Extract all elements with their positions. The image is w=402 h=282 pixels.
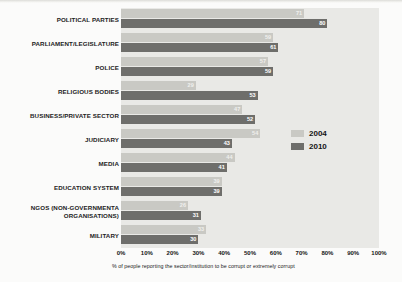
x-axis-tick-label: 50% xyxy=(244,250,256,256)
bar-2004: 29 xyxy=(121,81,196,90)
chart-legend: 2004 2010 xyxy=(291,128,361,154)
bar-2010: 41 xyxy=(121,163,227,172)
bar-value-label: 53 xyxy=(250,91,258,100)
x-axis-tick-label: 80% xyxy=(321,250,333,256)
legend-label-2010: 2010 xyxy=(309,142,327,151)
x-axis-tick-label: 20% xyxy=(167,250,179,256)
bar-2010: 80 xyxy=(121,19,327,28)
bar-2010: 30 xyxy=(121,235,198,244)
x-axis-tick-label: 40% xyxy=(218,250,230,256)
bar-value-label: 41 xyxy=(219,163,227,172)
legend-swatch-2010-icon xyxy=(291,143,304,150)
category-label: EDUCATION SYSTEM xyxy=(0,176,119,200)
bar-2010: 53 xyxy=(121,91,258,100)
bar-value-label: 54 xyxy=(252,129,260,138)
bar-value-label: 29 xyxy=(188,81,196,90)
x-axis-tick-label: 70% xyxy=(296,250,308,256)
legend-item-2004: 2004 xyxy=(291,128,361,139)
x-axis-tick-label: 60% xyxy=(270,250,282,256)
bar-value-label: 71 xyxy=(296,9,304,18)
bar-value-label: 59 xyxy=(265,33,273,42)
bar-value-label: 59 xyxy=(265,67,273,76)
category-label: NGOS (NON-GOVERNMENTA ORGANISATIONS) xyxy=(0,200,119,224)
bar-2004: 26 xyxy=(121,201,188,210)
bar-group: 2631 xyxy=(121,201,379,223)
x-axis-tick-label: 100% xyxy=(371,250,386,256)
category-label: POLICE xyxy=(0,56,119,80)
bar-group: 3939 xyxy=(121,177,379,199)
category-label: PARLIAMENT/LEGISLATURE xyxy=(0,32,119,56)
category-label: MEDIA xyxy=(0,152,119,176)
bar-row: BUSINESS/PRIVATE SECTOR4752 xyxy=(0,104,402,128)
category-label: JUDICIARY xyxy=(0,128,119,152)
bar-group: 4441 xyxy=(121,153,379,175)
bar-2004: 54 xyxy=(121,129,260,138)
bar-value-label: 47 xyxy=(234,105,242,114)
bar-2010: 52 xyxy=(121,115,255,124)
x-axis-tick-label: 0% xyxy=(117,250,126,256)
bar-row: PARLIAMENT/LEGISLATURE5961 xyxy=(0,32,402,56)
bar-row: POLICE5759 xyxy=(0,56,402,80)
bar-row: RELIGIOUS BODIES2953 xyxy=(0,80,402,104)
bar-value-label: 57 xyxy=(260,57,268,66)
bar-2004: 33 xyxy=(121,225,206,234)
bar-value-label: 52 xyxy=(247,115,255,124)
bar-group: 4752 xyxy=(121,105,379,127)
bar-value-label: 80 xyxy=(319,19,327,28)
bar-value-label: 39 xyxy=(213,187,221,196)
x-axis-ticks: 0%10%20%30%40%50%60%70%80%90%100% xyxy=(121,250,379,260)
bar-2010: 39 xyxy=(121,187,222,196)
bar-2010: 59 xyxy=(121,67,273,76)
bar-value-label: 31 xyxy=(193,211,201,220)
legend-label-2004: 2004 xyxy=(309,129,327,138)
corruption-perception-bar-chart: POLITICAL PARTIES7180PARLIAMENT/LEGISLAT… xyxy=(0,0,402,282)
x-axis-tick-label: 30% xyxy=(192,250,204,256)
bar-group: 7180 xyxy=(121,9,379,31)
bar-value-label: 30 xyxy=(190,235,198,244)
bar-value-label: 26 xyxy=(180,201,188,210)
bar-2004: 71 xyxy=(121,9,304,18)
bar-2010: 61 xyxy=(121,43,278,52)
bar-group: 5759 xyxy=(121,57,379,79)
bar-2004: 39 xyxy=(121,177,222,186)
bar-row: MILITARY3330 xyxy=(0,224,402,248)
x-axis-tick-label: 90% xyxy=(347,250,359,256)
bar-2004: 47 xyxy=(121,105,242,114)
page-scan-edge xyxy=(0,0,402,3)
bar-2004: 59 xyxy=(121,33,273,42)
legend-swatch-2004-icon xyxy=(291,130,304,137)
bar-group: 3330 xyxy=(121,225,379,247)
bar-2010: 43 xyxy=(121,139,232,148)
bar-2004: 44 xyxy=(121,153,235,162)
bar-2004: 57 xyxy=(121,57,268,66)
bar-row: MEDIA4441 xyxy=(0,152,402,176)
bar-value-label: 39 xyxy=(213,177,221,186)
legend-item-2010: 2010 xyxy=(291,141,361,152)
bar-value-label: 33 xyxy=(198,225,206,234)
bar-value-label: 43 xyxy=(224,139,232,148)
bar-row: POLITICAL PARTIES7180 xyxy=(0,8,402,32)
x-axis-title: % of people reporting the sector/institu… xyxy=(112,263,402,269)
category-label: BUSINESS/PRIVATE SECTOR xyxy=(0,104,119,128)
bar-group: 2953 xyxy=(121,81,379,103)
category-label: MILITARY xyxy=(0,224,119,248)
category-label: RELIGIOUS BODIES xyxy=(0,80,119,104)
bar-value-label: 44 xyxy=(226,153,234,162)
bar-row: NGOS (NON-GOVERNMENTA ORGANISATIONS)2631 xyxy=(0,200,402,224)
bar-group: 5961 xyxy=(121,33,379,55)
x-axis-tick-label: 10% xyxy=(141,250,153,256)
bar-value-label: 61 xyxy=(270,43,278,52)
bar-2010: 31 xyxy=(121,211,201,220)
category-label: POLITICAL PARTIES xyxy=(0,8,119,32)
bar-row: EDUCATION SYSTEM3939 xyxy=(0,176,402,200)
